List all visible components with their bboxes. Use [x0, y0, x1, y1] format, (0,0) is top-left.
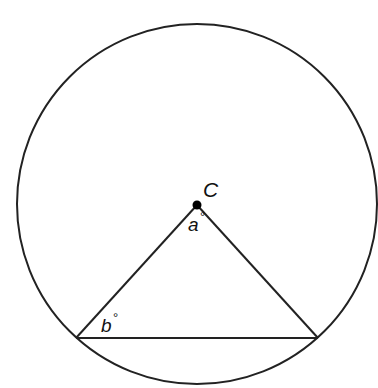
diagram-svg: C a ° b ° — [0, 0, 378, 388]
angle-b-degree: ° — [113, 310, 118, 325]
radius-left — [76, 205, 197, 338]
angle-a-label: a — [188, 214, 199, 235]
radius-right — [197, 205, 318, 338]
angle-b-label: b — [101, 315, 112, 336]
center-label: C — [203, 178, 219, 201]
angle-a-degree: ° — [200, 209, 205, 224]
geometry-diagram: C a ° b ° — [0, 0, 378, 388]
